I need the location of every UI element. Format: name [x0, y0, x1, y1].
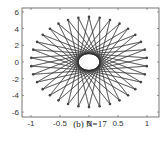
- data-point: [134, 88, 137, 91]
- figure-caption: (b) N=17: [0, 119, 168, 129]
- data-point: [118, 22, 121, 25]
- data-point: [118, 99, 121, 102]
- data-point: [145, 57, 148, 60]
- data-point: [41, 34, 44, 37]
- data-point: [30, 65, 33, 68]
- data-point: [41, 88, 44, 91]
- y-tick-label: 6: [15, 8, 20, 17]
- data-point: [67, 19, 70, 22]
- data-point: [67, 103, 70, 106]
- data-point: [49, 27, 52, 30]
- data-point: [57, 99, 60, 102]
- y-tick-label: -4: [12, 91, 20, 100]
- data-markers: [30, 16, 148, 109]
- data-point: [98, 105, 101, 108]
- data-point: [98, 16, 101, 19]
- y-tick-label: -6: [12, 108, 20, 117]
- data-point: [36, 81, 39, 84]
- x-axis-ticks: -1-0.500.51: [27, 8, 149, 128]
- data-point: [49, 94, 52, 97]
- data-point: [127, 27, 130, 30]
- data-point: [32, 73, 35, 76]
- data-point: [57, 22, 60, 25]
- chord-lines: [31, 17, 147, 107]
- data-point: [109, 103, 112, 106]
- data-point: [30, 57, 33, 60]
- data-point: [109, 19, 112, 22]
- data-point: [127, 94, 130, 97]
- data-point: [143, 73, 146, 76]
- data-point: [77, 16, 80, 19]
- y-tick-label: -2: [12, 75, 20, 84]
- y-axis-ticks: 6420-2-4-6: [12, 8, 159, 117]
- data-point: [88, 16, 91, 19]
- data-point: [145, 65, 148, 68]
- y-tick-label: 4: [15, 25, 20, 34]
- y-tick-label: 0: [15, 58, 20, 67]
- y-tick-label: 2: [15, 41, 20, 50]
- data-point: [140, 81, 143, 84]
- data-point: [140, 41, 143, 44]
- data-point: [32, 48, 35, 51]
- data-point: [134, 34, 137, 37]
- data-point: [143, 48, 146, 51]
- data-point: [36, 41, 39, 44]
- data-point: [88, 106, 91, 109]
- data-point: [77, 105, 80, 108]
